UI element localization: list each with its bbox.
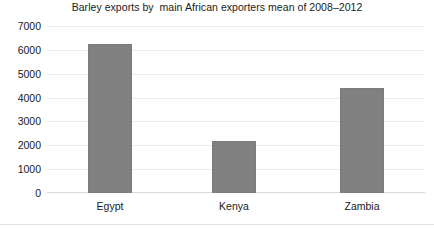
- plot-area: [47, 26, 425, 193]
- bar-chart: Barley exports by main African exporters…: [0, 0, 434, 230]
- y-axis-tick-2000: 2000: [0, 140, 41, 151]
- y-axis-tick-1000: 1000: [0, 164, 41, 175]
- gridline-7000: [47, 26, 425, 27]
- y-axis-tick-3000: 3000: [0, 116, 41, 127]
- x-axis-label-egypt: Egypt: [55, 200, 165, 213]
- bottom-divider: [0, 224, 434, 225]
- bar-egypt[interactable]: [88, 44, 132, 193]
- y-axis-tick-5000: 5000: [0, 69, 41, 80]
- bar-zambia[interactable]: [340, 88, 384, 193]
- x-axis-label-kenya: Kenya: [179, 200, 289, 213]
- y-axis-tick-0: 0: [0, 188, 41, 199]
- y-axis-tick-7000: 7000: [0, 21, 41, 32]
- chart-title: Barley exports by main African exporters…: [0, 1, 434, 14]
- x-axis-label-zambia: Zambia: [307, 200, 417, 213]
- bar-kenya[interactable]: [212, 141, 256, 193]
- y-axis-tick-4000: 4000: [0, 93, 41, 104]
- y-axis-tick-6000: 6000: [0, 45, 41, 56]
